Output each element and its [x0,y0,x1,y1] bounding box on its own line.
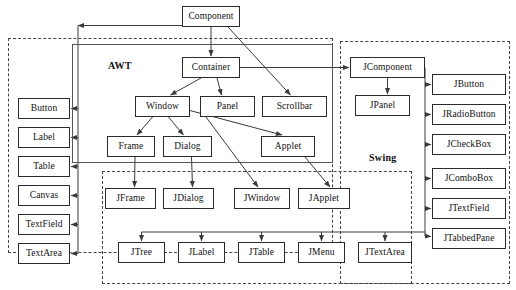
class-node-button[interactable]: Button [18,98,70,119]
class-node-jtextfield[interactable]: JTextField [432,198,506,219]
class-node-applet[interactable]: Applet [261,136,315,157]
class-node-jtable[interactable]: JTable [238,242,285,263]
class-node-jcheckbox[interactable]: JCheckBox [432,134,506,155]
class-node-jpanel[interactable]: JPanel [355,95,410,116]
class-node-dialog[interactable]: Dialog [163,136,212,157]
class-node-jradiobutton[interactable]: JRadioButton [432,104,506,125]
class-node-jtabbedpane[interactable]: JTabbedPane [432,228,506,249]
class-node-component[interactable]: Component [182,6,240,27]
group-label-awt: AWT [108,60,132,71]
class-node-scrollbar[interactable]: Scrollbar [262,96,327,117]
class-node-container[interactable]: Container [182,57,240,78]
class-node-textfield[interactable]: TextField [18,214,70,235]
class-node-frame[interactable]: Frame [107,136,155,157]
class-node-window[interactable]: Window [135,96,190,117]
class-node-jframe[interactable]: JFrame [105,188,156,209]
class-node-jmenu[interactable]: JMenu [298,242,345,263]
class-hierarchy-diagram: AWTSwing ComponentContainerWindowPanelSc… [0,0,516,290]
class-node-panel[interactable]: Panel [200,96,255,117]
class-node-label[interactable]: Label [18,127,70,148]
class-node-japplet[interactable]: JApplet [298,188,350,209]
class-node-jcombobox[interactable]: JComboBox [432,168,506,189]
class-node-textarea[interactable]: TextArea [18,243,70,264]
class-node-jcomponent[interactable]: JComponent [350,57,425,78]
group-label-swing: Swing [369,152,397,163]
class-node-jtextarea[interactable]: JTextArea [358,242,412,263]
class-node-jbutton[interactable]: JButton [432,74,506,95]
class-node-canvas[interactable]: Canvas [18,185,70,206]
class-node-jdialog[interactable]: JDialog [163,188,214,209]
class-node-jwindow[interactable]: JWindow [234,188,290,209]
class-node-table[interactable]: Table [18,156,70,177]
class-node-jlabel[interactable]: JLabel [178,242,225,263]
class-node-jtree[interactable]: JTree [118,242,165,263]
